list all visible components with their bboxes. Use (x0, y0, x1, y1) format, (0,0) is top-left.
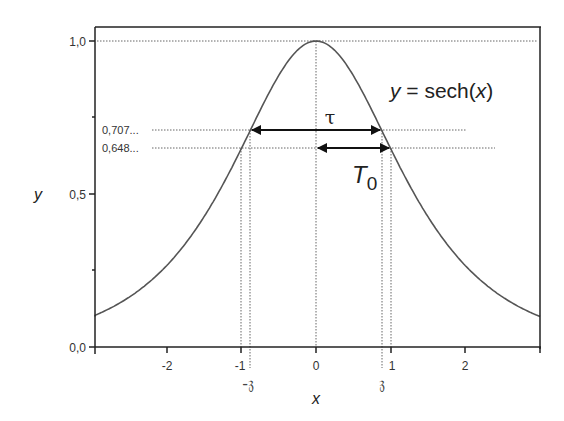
sech-chart: 1,0 0,5 0,0 0,707... 0,648... -2 -1 0 1 … (0, 0, 564, 421)
function-label: y = sech(x) (388, 79, 493, 102)
x-tick-label-m2: -2 (162, 359, 173, 373)
x-axis-title: x (311, 390, 321, 407)
y-tick-label-0-5: 0,5 (69, 188, 86, 202)
level-label-0-707: 0,707... (102, 124, 139, 136)
arrows (252, 130, 389, 148)
axes-frame (89, 27, 541, 354)
x-tick-label-2: 2 (462, 359, 469, 373)
x-tick-label-0: 0 (313, 359, 320, 373)
level-label-0-648: 0,648... (102, 142, 139, 154)
y-tick-label-1-0: 1,0 (69, 35, 86, 49)
x-tick-label-m1: -1 (235, 359, 246, 373)
y-axis-title: y (33, 186, 43, 203)
x-tick-label-1: 1 (389, 359, 396, 373)
y-tick-label-0-0: 0,0 (69, 341, 86, 355)
pos-z-label: 𝔷 (379, 373, 385, 393)
function-label-close: ) (486, 79, 493, 102)
function-label-eq: = sech( (401, 79, 476, 102)
t0-label: T0 (352, 161, 377, 194)
tau-label: τ (325, 106, 336, 128)
t0-label-sub: 0 (367, 173, 378, 194)
neg-z-label: -𝔷 (242, 373, 254, 393)
